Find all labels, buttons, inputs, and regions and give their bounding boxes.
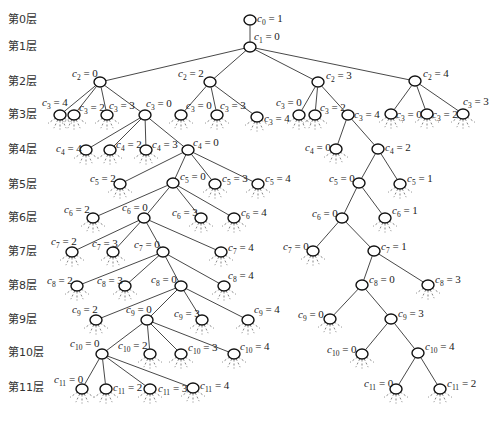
tree-node-c7b	[368, 246, 380, 256]
tree-node-a10a	[96, 349, 108, 359]
layer-label: 第5层	[8, 177, 37, 191]
layer-label: 第8层	[8, 278, 37, 292]
layer-label: 第3层	[8, 107, 37, 121]
tree-edge	[420, 84, 459, 111]
tree-edge	[366, 323, 388, 350]
tree-node-c10b	[412, 348, 424, 358]
tree-edge	[148, 187, 170, 214]
node-label: c6 = 2	[64, 203, 90, 218]
node-label: c3 = 3	[463, 95, 489, 110]
tree-node-a9a	[90, 315, 102, 325]
node-label: c5 = 0	[329, 172, 355, 187]
tree-edge	[334, 289, 358, 315]
tree-node-b3a	[175, 110, 187, 120]
tree-node-c9b	[385, 314, 397, 324]
node-label: c4 = 3	[152, 138, 178, 153]
node-label: c3 = 3	[220, 99, 246, 114]
tree-node-a5c	[209, 179, 221, 189]
tree-node-c3a	[293, 110, 305, 120]
tree-edge	[338, 120, 346, 144]
tree-node-c6b	[379, 213, 391, 223]
node-label: c1 = 0	[254, 30, 280, 45]
node-label: c8 = 0	[369, 273, 395, 288]
tree-edge	[151, 324, 177, 350]
node-label: c3 = 4	[354, 108, 380, 123]
tree-node-c10a	[356, 349, 368, 359]
node-label: c10 = 0	[327, 343, 357, 358]
layer-label: 第0层	[8, 12, 37, 26]
node-label: c5 = 2	[90, 172, 116, 187]
tree-node-a5d	[252, 179, 264, 189]
tree-node-a9b	[141, 315, 153, 325]
node-label: c8 = 2	[47, 274, 73, 289]
node-label: c8 = 4	[228, 269, 254, 284]
node-label: c9 = 4	[254, 303, 280, 318]
tree-node-c4b	[372, 144, 384, 154]
tree-edge	[352, 119, 375, 145]
layer-label: 第4层	[8, 142, 37, 156]
node-label: c7 = 0	[283, 240, 309, 255]
tree-node-a3a	[54, 110, 66, 120]
search-tree-diagram: 第0层第1层第2层第3层第4层第5层第6层第7层第8层第9层第10层第11层 c…	[0, 0, 499, 423]
node-label: c7 = 0	[134, 238, 160, 253]
tree-node-a3d	[139, 110, 151, 120]
tree-edge	[125, 152, 183, 181]
tree-node-a7d	[215, 247, 227, 257]
tree-edge	[362, 154, 376, 178]
node-label: c5 = 3	[222, 172, 248, 187]
tree-node-d2	[409, 76, 421, 86]
tree-node-a7a	[66, 247, 78, 257]
node-label: c2 = 3	[326, 69, 352, 84]
tree-edge	[145, 120, 146, 144]
node-label: c9 = 0	[298, 308, 324, 323]
node-label: c8 = 0	[151, 273, 177, 288]
node-label: c5 = 1	[407, 172, 433, 187]
tree-edge	[103, 359, 106, 383]
node-label: c4 = 2	[385, 141, 411, 156]
tree-edge	[394, 85, 412, 109]
node-label: c4 = 0	[305, 141, 331, 156]
node-label-group: c0 = 1c1 = 0c2 = 0c2 = 2c2 = 3c2 = 4c3 =…	[42, 12, 489, 397]
tree-edge	[85, 359, 100, 384]
tree-node-a11d	[187, 383, 199, 393]
tree-edge	[381, 154, 397, 180]
node-label: c6 = 0	[312, 207, 338, 222]
tree-node-a6b	[138, 213, 150, 223]
tree-node-a11a	[76, 384, 88, 394]
tree-edge	[399, 358, 415, 385]
node-label: c0 = 1	[257, 12, 283, 27]
tree-node-a10d	[228, 349, 240, 359]
node-label: c3 = 3	[109, 99, 135, 114]
tree-edge	[105, 48, 244, 81]
tree-node-c9a	[324, 314, 336, 324]
tree-node-n0	[244, 15, 256, 25]
tree-edge	[421, 358, 437, 385]
node-label: c2 = 4	[423, 67, 449, 82]
node-label: c9 = 3	[398, 307, 424, 322]
node-label: c2 = 2	[178, 67, 204, 82]
tree-edge	[346, 222, 370, 247]
tree-node-b2	[204, 77, 216, 87]
layer-label: 第11层	[8, 380, 44, 394]
node-label: c7 = 1	[381, 240, 407, 255]
node-label: c11 = 2	[113, 381, 142, 396]
tree-edge	[362, 187, 381, 213]
node-label: c11 = 2	[447, 377, 476, 392]
tree-node-a11b	[100, 384, 112, 394]
node-label: c10 = 2	[118, 339, 148, 354]
tree-edge	[417, 86, 425, 109]
node-label: c3 = 0	[146, 97, 172, 112]
layer-label: 第1层	[8, 39, 37, 53]
tree-edge	[214, 51, 246, 79]
node-label: c7 = 4	[228, 241, 254, 256]
node-label: c5 = 4	[265, 172, 291, 187]
node-label: c10 = 3	[188, 341, 218, 356]
tree-node-d3c	[457, 109, 469, 119]
tree-node-b3b	[211, 110, 223, 120]
tree-edge	[147, 325, 149, 348]
tree-edge	[317, 222, 339, 247]
node-label: c10 = 0	[70, 337, 100, 352]
tree-node-a11c	[144, 384, 156, 394]
node-label: c10 = 4	[425, 340, 455, 355]
tree-edge	[315, 87, 317, 109]
